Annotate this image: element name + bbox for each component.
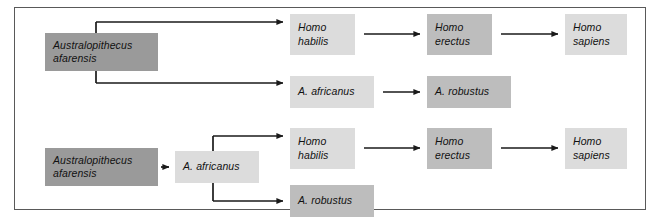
node-lower-homo-sapiens: Homo sapiens (565, 128, 627, 169)
hominin-phylogeny-figure: Australopithecus afarensis Homo habilis … (0, 0, 666, 222)
figure-canvas: Australopithecus afarensis Homo habilis … (0, 0, 666, 222)
node-upper-homo-sapiens: Homo sapiens (565, 14, 627, 55)
node-lower-homo-habilis: Homo habilis (290, 128, 355, 169)
node-upper-homo-habilis: Homo habilis (290, 14, 355, 55)
node-upper-a-robustus: A. robustus (427, 76, 511, 108)
node-lower-a-robustus: A. robustus (290, 185, 374, 217)
node-upper-a-africanus: A. africanus (290, 76, 374, 108)
node-lower-homo-erectus: Homo erectus (427, 128, 492, 169)
node-upper-homo-erectus: Homo erectus (427, 14, 492, 55)
node-lower-a-africanus: A. africanus (175, 151, 259, 183)
node-upper-australopithecus-afarensis: Australopithecus afarensis (45, 33, 158, 71)
node-lower-australopithecus-afarensis: Australopithecus afarensis (45, 148, 158, 186)
